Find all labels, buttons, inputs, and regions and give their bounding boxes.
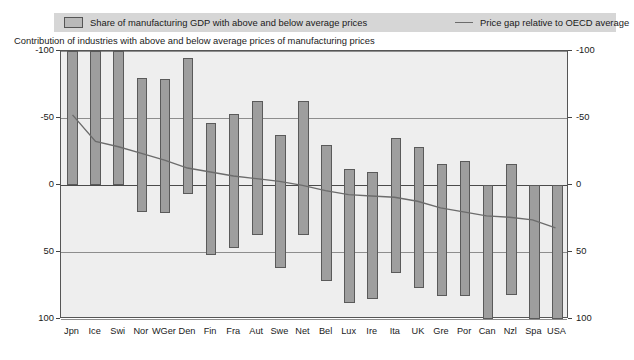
bar-Spa — [529, 185, 540, 319]
bar-Nzl — [506, 164, 517, 295]
bar-Por — [460, 161, 471, 296]
y-axis-tick-left--100: 100 — [26, 312, 54, 323]
bar-Swe — [275, 135, 286, 268]
y-axis-tick-right-50: -50 — [576, 111, 610, 122]
legend-item-line-series: Price gap relative to OECD average — [455, 17, 629, 28]
bar-Nor — [137, 78, 148, 212]
chart-root: Share of manufacturing GDP with above an… — [0, 0, 634, 360]
chart-subtitle: Contribution of industries with above an… — [14, 35, 375, 46]
bar-Ice — [90, 51, 101, 185]
bar-Net — [298, 101, 309, 235]
y-axis-tick-right-0: 0 — [576, 178, 610, 189]
legend-label-line-series: Price gap relative to OECD average — [480, 17, 629, 28]
gridline-100 — [61, 51, 567, 52]
y-axis-tickmark-right-50 — [568, 117, 572, 118]
bar-Aut — [252, 101, 263, 235]
y-axis-tickmark-right--50 — [568, 251, 572, 252]
bar-Fra — [229, 114, 240, 248]
bar-Can — [483, 185, 494, 319]
gridline--100 — [61, 319, 567, 320]
bar-Lux — [344, 169, 355, 303]
bar-Jpn — [67, 51, 78, 185]
y-axis-tick-left-50: -50 — [26, 111, 54, 122]
bar-Ire — [367, 172, 378, 299]
bar-Swi — [113, 51, 124, 185]
plot-area — [60, 50, 568, 318]
x-axis-label-USA: USA — [539, 326, 573, 336]
y-axis-tickmark-left--50 — [56, 251, 60, 252]
y-axis-tickmark-right-100 — [568, 50, 572, 51]
y-axis-tickmark-left-100 — [56, 50, 60, 51]
y-axis-tickmark-left-0 — [56, 184, 60, 185]
plot-inner — [61, 51, 567, 317]
bar-USA — [552, 185, 563, 319]
line-swatch-icon — [455, 22, 473, 23]
legend-item-bar-series: Share of manufacturing GDP with above an… — [64, 17, 367, 28]
y-axis-tick-left-100: -100 — [26, 44, 54, 55]
bar-Gre — [437, 164, 448, 297]
bar-Ita — [391, 138, 402, 273]
bar-WGer — [160, 79, 171, 213]
y-axis-tick-right--50: 50 — [576, 245, 610, 256]
bar-Fin — [206, 123, 217, 254]
legend-label-bar-series: Share of manufacturing GDP with above an… — [90, 17, 367, 28]
bar-Den — [183, 58, 194, 195]
y-axis-tick-right-100: -100 — [576, 44, 610, 55]
bar-swatch-icon — [64, 17, 83, 28]
y-axis-tick-right--100: 100 — [576, 312, 610, 323]
bar-UK — [414, 147, 425, 288]
y-axis-tickmark-left--100 — [56, 318, 60, 319]
chart-legend: Share of manufacturing GDP with above an… — [54, 13, 616, 32]
y-axis-tickmark-left-50 — [56, 117, 60, 118]
y-axis-tick-left-0: 0 — [26, 178, 54, 189]
y-axis-tick-left--50: 50 — [26, 245, 54, 256]
bar-Bel — [321, 145, 332, 282]
y-axis-tickmark-right-0 — [568, 184, 572, 185]
y-axis-tickmark-right--100 — [568, 318, 572, 319]
